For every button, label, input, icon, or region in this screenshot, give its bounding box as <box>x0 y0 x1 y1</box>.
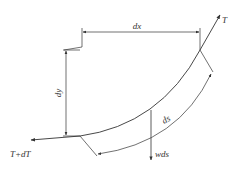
T-label: T <box>222 15 228 25</box>
T-dT-label: T+dT <box>10 149 32 159</box>
dx-label: dx <box>133 21 142 31</box>
wds-label: wds <box>155 149 170 159</box>
ds-extension-upper <box>200 50 213 72</box>
dy-label: dy <box>53 89 63 98</box>
tension-T-dT-arrow <box>31 136 80 140</box>
dx-step <box>64 47 82 50</box>
tension-T-arrow <box>200 15 220 50</box>
cable-element-diagram: dx dy ds wds T T+dT <box>0 0 235 172</box>
ds-label: ds <box>160 113 172 126</box>
ds-arc <box>98 74 211 154</box>
cable-curve <box>80 50 200 136</box>
ds-extension-lower <box>80 136 97 156</box>
